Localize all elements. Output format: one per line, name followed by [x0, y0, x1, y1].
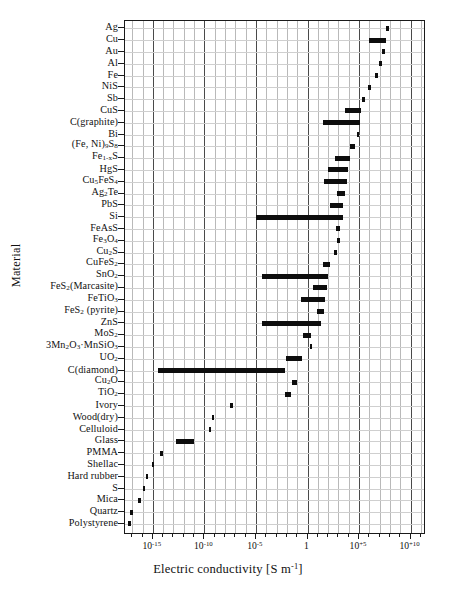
- y-axis-tick-label: UO2: [99, 352, 118, 365]
- grid-line-minor: [338, 21, 339, 533]
- grid-line-horizontal: [125, 87, 424, 88]
- x-axis-minor-tick: [245, 534, 246, 537]
- grid-line-minor: [143, 21, 144, 533]
- grid-line-horizontal: [125, 453, 424, 454]
- grid-line-horizontal: [125, 288, 424, 289]
- bar: [323, 262, 330, 267]
- bar: [158, 368, 285, 373]
- grid-line-horizontal: [125, 312, 424, 313]
- x-axis-minor-tick: [265, 534, 266, 537]
- bar: [324, 179, 347, 184]
- grid-line-minor: [421, 21, 422, 533]
- grid-line-horizontal: [125, 500, 424, 501]
- grid-line-horizontal: [125, 512, 424, 513]
- bar: [336, 226, 340, 231]
- grid-line-minor: [163, 21, 164, 533]
- y-axis-tick-label: C(graphite): [70, 117, 118, 127]
- x-axis-minor-tick: [183, 534, 184, 537]
- bar: [146, 474, 149, 479]
- y-axis-tick-label: Quartz: [90, 506, 118, 516]
- x-axis-minor-tick: [348, 534, 349, 537]
- bar: [337, 191, 345, 196]
- grid-line-major: [153, 21, 154, 533]
- x-axis-minor-tick: [420, 534, 421, 537]
- grid-line-horizontal: [125, 394, 424, 395]
- y-axis-tick-label: ZnS: [101, 317, 118, 327]
- x-axis-minor-tick: [162, 534, 163, 537]
- grid-line-horizontal: [125, 335, 424, 336]
- x-axis-minor-tick: [379, 534, 380, 537]
- bar: [386, 26, 389, 31]
- grid-line-horizontal: [125, 111, 424, 112]
- y-axis-tick-label: Fe1-xS: [92, 151, 118, 164]
- grid-line-horizontal: [125, 253, 424, 254]
- x-axis-minor-tick: [296, 534, 297, 537]
- x-axis-tick-label: 10-10: [194, 540, 213, 551]
- bar: [230, 403, 233, 408]
- grid-line-horizontal: [125, 441, 424, 442]
- x-axis-minor-tick: [172, 534, 173, 537]
- bar: [143, 486, 146, 491]
- grid-line-horizontal: [125, 146, 424, 147]
- y-axis-tick-label: Cu: [106, 34, 118, 44]
- y-axis-tick-label: C(diamond): [68, 365, 118, 375]
- grid-line-minor: [380, 21, 381, 533]
- grid-line-minor: [349, 21, 350, 533]
- grid-line-horizontal: [125, 430, 424, 431]
- x-axis-minor-tick: [368, 534, 369, 537]
- bar: [382, 49, 385, 54]
- bar: [350, 144, 355, 149]
- grid-line-major: [359, 21, 360, 533]
- conductivity-chart-figure: Material AgCuAuAlFeNiSSbCuSC(graphite)Bi…: [0, 0, 456, 597]
- y-axis-tick-label: Shellac: [87, 459, 118, 469]
- grid-line-horizontal: [125, 28, 424, 29]
- bar: [292, 380, 297, 385]
- x-axis-tick-label: 10-15: [142, 540, 161, 551]
- x-axis-tick: [410, 534, 411, 539]
- grid-line-horizontal: [125, 170, 424, 171]
- x-axis-tick-label: 1: [304, 540, 309, 551]
- y-axis-tick-label: PMMA: [86, 447, 118, 457]
- x-axis-tick-label: 10+5: [350, 540, 367, 551]
- grid-line-minor: [132, 21, 133, 533]
- x-axis-title: Electric conductivity [S m-1]: [0, 562, 456, 577]
- y-axis-tick-label: Wood(dry): [73, 412, 118, 422]
- y-axis-tick-label: Celluloid: [79, 424, 118, 434]
- bar: [323, 120, 360, 125]
- y-axis-tick-labels: AgCuAuAlFeNiSSbCuSC(graphite)Bi(Fe, Ni)9…: [0, 20, 122, 534]
- y-axis-tick-label: FeS2 (pyrite): [64, 304, 118, 317]
- y-axis-tick-label: Au: [105, 46, 118, 56]
- bar: [317, 309, 324, 314]
- grid-line-minor: [225, 21, 226, 533]
- y-axis-tick-label: PbS: [101, 199, 118, 209]
- plot-area: [124, 20, 425, 534]
- grid-line-major: [204, 21, 205, 533]
- y-axis-tick-label: Si: [109, 211, 118, 221]
- grid-line-horizontal: [125, 241, 424, 242]
- bar: [369, 38, 386, 43]
- bar: [362, 97, 365, 102]
- x-axis-tick: [307, 534, 308, 539]
- bar: [313, 285, 327, 290]
- x-axis-tick: [152, 534, 153, 539]
- y-axis-tick-label: Glass: [95, 435, 118, 445]
- grid-line-horizontal: [125, 205, 424, 206]
- bar: [310, 344, 313, 349]
- y-axis-tick-label: S: [112, 483, 118, 493]
- bar: [303, 333, 311, 338]
- x-axis-tick: [358, 534, 359, 539]
- bar: [152, 462, 155, 467]
- y-axis-tick-label: Bi: [108, 129, 118, 139]
- grid-line-horizontal: [125, 99, 424, 100]
- x-axis-tick: [255, 534, 256, 539]
- bar: [334, 250, 337, 255]
- grid-line-major: [411, 21, 412, 533]
- bar: [138, 498, 141, 503]
- y-axis-tick-label: Fe: [108, 70, 118, 80]
- x-axis-minor-tick: [317, 534, 318, 537]
- bar: [337, 238, 340, 243]
- bar: [262, 274, 328, 279]
- grid-line-horizontal: [125, 347, 424, 348]
- x-axis-minor-tick: [142, 534, 143, 537]
- bar: [212, 415, 215, 420]
